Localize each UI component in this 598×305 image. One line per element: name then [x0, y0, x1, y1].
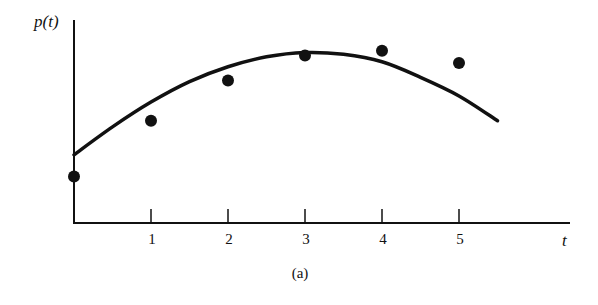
data-points — [68, 45, 465, 183]
x-tick-label-4: 4 — [373, 231, 393, 248]
chart-plot-area — [0, 0, 598, 305]
data-point — [145, 115, 157, 127]
data-point — [376, 45, 388, 57]
x-tick-label-1: 1 — [142, 231, 162, 248]
x-tick-label-2: 2 — [219, 231, 239, 248]
x-axis-ticks — [151, 209, 459, 223]
x-tick-label-5: 5 — [450, 231, 470, 248]
data-point — [222, 74, 234, 86]
data-point — [453, 57, 465, 69]
data-point — [299, 50, 311, 62]
y-axis-label: p(t) — [34, 12, 59, 32]
x-axis-label: t — [562, 231, 567, 251]
data-point — [68, 171, 80, 183]
figure-caption: (a) — [270, 265, 330, 282]
x-tick-label-3: 3 — [296, 231, 316, 248]
fitted-curve — [74, 52, 498, 154]
